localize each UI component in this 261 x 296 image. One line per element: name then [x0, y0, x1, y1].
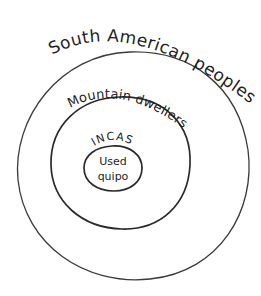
middle-set-label-text: Mountain dwellers	[65, 86, 191, 131]
inner-circle	[84, 146, 142, 191]
outer-set: South American peoples	[17, 25, 260, 279]
outer-circle	[17, 52, 249, 280]
inner-content-line-1: Used	[99, 155, 127, 168]
inner-set: INCAS Used quipo	[84, 130, 142, 191]
inner-content-line-2: quipo	[98, 170, 129, 183]
nested-sets-diagram: South American peoples Mountain dwellers…	[0, 0, 261, 296]
middle-set-label: Mountain dwellers	[65, 86, 191, 131]
